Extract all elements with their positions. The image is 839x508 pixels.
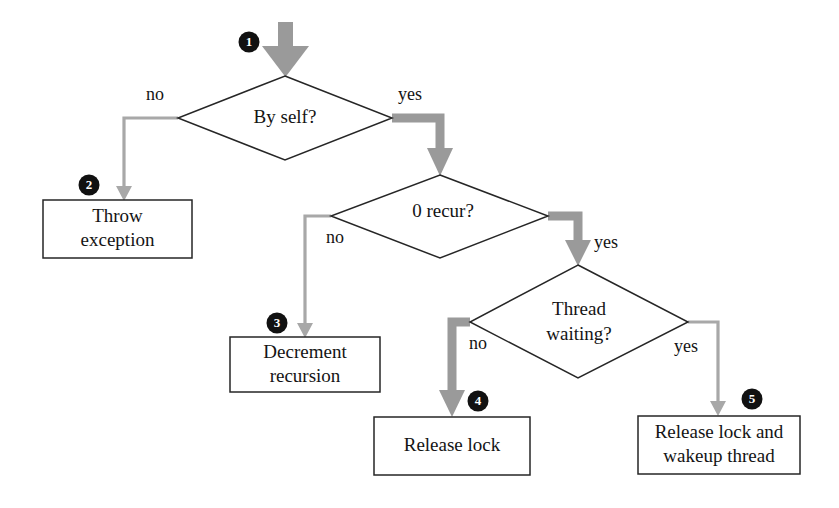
decision-by-self[interactable]: By self? xyxy=(178,76,392,160)
edge-label-zero-recur-no: no xyxy=(326,227,344,247)
process-release-lock[interactable]: Release lock xyxy=(374,417,530,475)
edge-label-thread-waiting-yes: yes xyxy=(674,336,698,356)
flowchart-diagram: By self? 0 recur? Thread waiting? Throw … xyxy=(0,0,839,508)
edge-entry xyxy=(262,22,309,77)
decision-thread-waiting[interactable]: Thread waiting? xyxy=(470,265,688,378)
process-release-lock-wakeup[interactable]: Release lock and wakeup thread xyxy=(638,416,800,474)
decision-zero-recur[interactable]: 0 recur? xyxy=(331,175,548,258)
marker-1: 1 xyxy=(239,32,260,53)
process-decrement-recursion[interactable]: Decrement recursion xyxy=(230,337,380,392)
edge-by-self-no xyxy=(116,118,178,201)
marker-4: 4 xyxy=(468,391,489,412)
marker-2: 2 xyxy=(79,175,100,196)
edge-zero-recur-yes xyxy=(548,216,591,266)
edge-label-thread-waiting-no: no xyxy=(469,333,487,353)
edge-zero-recur-no xyxy=(297,216,331,338)
edge-label-by-self-yes: yes xyxy=(398,84,422,104)
marker-5: 5 xyxy=(742,389,763,410)
marker-3: 3 xyxy=(267,313,288,334)
flowchart-canvas: By self? 0 recur? Thread waiting? Throw … xyxy=(0,0,839,508)
edge-label-zero-recur-yes: yes xyxy=(594,232,618,252)
edge-thread-waiting-yes xyxy=(688,322,726,416)
edge-thread-waiting-no xyxy=(439,322,470,417)
edge-label-by-self-no: no xyxy=(146,84,164,104)
edge-by-self-yes xyxy=(392,118,453,176)
process-throw-exception[interactable]: Throw exception xyxy=(43,200,192,258)
